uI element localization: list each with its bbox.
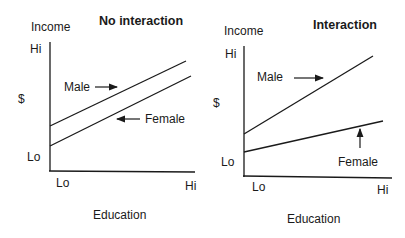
- left-chart: [49, 42, 195, 172]
- left-unit-label: $: [18, 92, 25, 106]
- right-female-line: [244, 121, 383, 152]
- right-male-line: [244, 56, 373, 134]
- left-female-label: Female: [145, 112, 185, 126]
- right-y-lo-tick: Lo: [221, 155, 234, 169]
- right-y-hi-tick: Hi: [225, 47, 236, 61]
- left-y-hi-tick: Hi: [30, 42, 41, 56]
- right-unit-label: $: [213, 96, 220, 110]
- left-chart-title: No interaction: [99, 14, 183, 28]
- right-male-label: Male: [257, 70, 283, 84]
- left-y-axis-label: Income: [31, 20, 70, 34]
- right-chart-title: Interaction: [313, 18, 377, 32]
- left-y-lo-tick: Lo: [27, 150, 40, 164]
- right-y-axis-label: Income: [224, 24, 263, 38]
- left-x-axis-label: Education: [93, 208, 146, 222]
- left-x-hi-tick: Hi: [185, 179, 196, 193]
- interaction-diagrams: [0, 0, 405, 238]
- left-male-label: Male: [64, 80, 90, 94]
- right-female-label: Female: [338, 155, 378, 169]
- left-x-axis: [49, 171, 195, 172]
- left-x-lo-tick: Lo: [56, 176, 69, 190]
- right-x-lo-tick: Lo: [252, 180, 265, 194]
- right-x-hi-tick: Hi: [377, 183, 388, 197]
- right-x-axis: [243, 176, 392, 178]
- right-x-axis-label: Education: [287, 212, 340, 226]
